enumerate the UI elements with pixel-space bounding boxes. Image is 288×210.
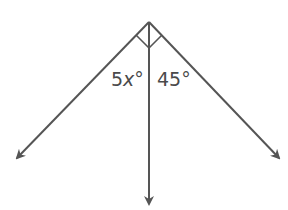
angle-label-45: 45°: [157, 70, 191, 89]
angle-diagram: [0, 0, 288, 210]
angle-value: 45: [157, 68, 181, 90]
degree-symbol: °: [181, 68, 191, 90]
variable-x: x: [123, 68, 134, 90]
angle-label-5x: 5x°: [111, 70, 144, 89]
coefficient: 5: [111, 68, 123, 90]
rays: [17, 22, 279, 204]
left-ray: [17, 22, 149, 158]
right-ray: [149, 22, 279, 158]
degree-symbol: °: [134, 68, 144, 90]
right-angle-mark-left: [136, 35, 149, 48]
right-angle-mark-right: [149, 35, 162, 48]
